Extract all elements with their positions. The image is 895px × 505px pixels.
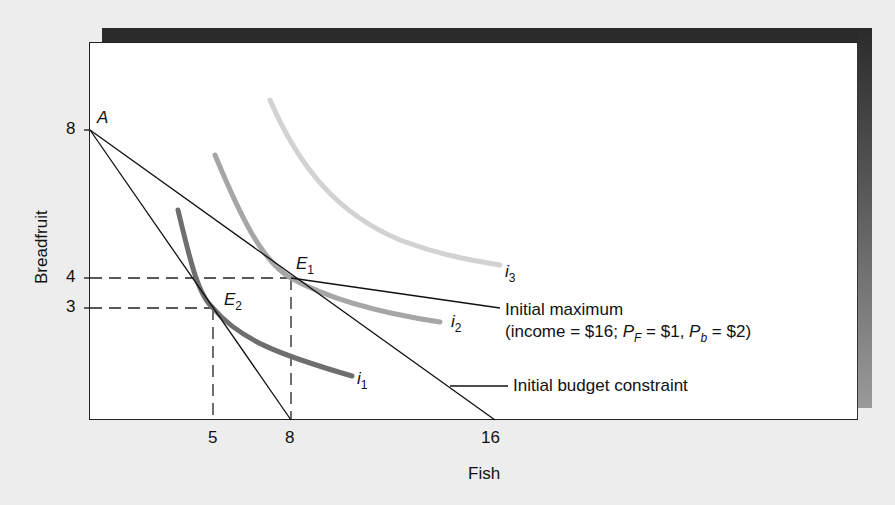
point-label-e1: E1 (296, 254, 314, 277)
x-tick-16: 16 (481, 428, 500, 448)
axis-ticks (84, 130, 90, 308)
x-axis-title: Fish (468, 464, 500, 484)
curve-label-i2: i2 (451, 312, 461, 335)
x-tick-8: 8 (285, 428, 294, 448)
indifference-curve-i2 (215, 155, 440, 322)
curve-label-i1: i1 (357, 369, 367, 392)
annotation-initial-budget-constraint: Initial budget constraint (513, 376, 688, 396)
y-axis-title: Breadfruit (32, 210, 52, 284)
x-tick-5: 5 (208, 428, 217, 448)
y-tick-8: 8 (66, 119, 75, 139)
annotation-initial-maximum: Initial maximum (505, 300, 623, 320)
plot-area (0, 0, 895, 505)
point-label-a: A (97, 108, 108, 128)
initial-budget-constraint-line (90, 130, 495, 420)
y-tick-3: 3 (66, 297, 75, 317)
annotation-initial-maximum-params: (income = $16; PF = $1, Pb = $2) (505, 322, 751, 345)
chart-figure: 8 4 3 5 8 16 Fish Breadfruit A E1 E2 i3 … (0, 0, 895, 505)
y-tick-4: 4 (66, 267, 75, 287)
reference-lines (90, 278, 291, 420)
indifference-curve-i3 (270, 100, 500, 265)
point-label-e2: E2 (224, 290, 242, 313)
curve-label-i3: i3 (505, 262, 515, 285)
new-budget-constraint-line (90, 130, 291, 420)
